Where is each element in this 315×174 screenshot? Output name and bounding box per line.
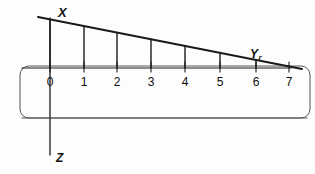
axis-label-y-subscript: r bbox=[259, 53, 262, 62]
tick-number-6: 6 bbox=[248, 76, 264, 88]
sloped-line-group bbox=[38, 17, 302, 69]
axis-tick-marks-group bbox=[50, 62, 289, 72]
ordinate-drop-lines-group bbox=[50, 19, 256, 68]
tick-number-3: 3 bbox=[143, 76, 159, 88]
axis-label-y-r: Yr bbox=[250, 48, 262, 62]
axis-label-y-base: Y bbox=[250, 47, 258, 61]
tick-number-0: 0 bbox=[42, 76, 58, 88]
tick-number-7: 7 bbox=[281, 76, 297, 88]
bracket-group bbox=[20, 66, 310, 118]
diagram-canvas: X Yr Z 01234567 bbox=[0, 0, 315, 174]
tick-number-4: 4 bbox=[177, 76, 193, 88]
tick-number-2: 2 bbox=[109, 76, 125, 88]
sloped-line bbox=[38, 17, 302, 69]
axis-label-x: X bbox=[58, 6, 67, 19]
bracket-outline bbox=[20, 66, 310, 118]
tick-number-1: 1 bbox=[76, 76, 92, 88]
axis-label-z: Z bbox=[56, 152, 63, 164]
tick-number-5: 5 bbox=[212, 76, 228, 88]
